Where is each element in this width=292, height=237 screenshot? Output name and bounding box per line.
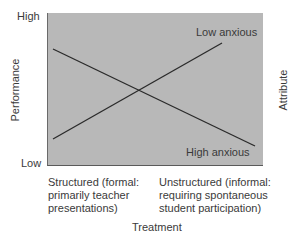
high-anxious-line: [53, 49, 255, 146]
category-structured-line3: presentations): [48, 202, 139, 215]
series-label-low-anxious: Low anxious: [196, 26, 257, 38]
y-axis-label: Performance: [9, 59, 21, 122]
y-tick-low: Low: [21, 157, 41, 169]
category-structured-line2: primarily teacher: [48, 189, 139, 202]
category-label-structured: Structured (formal: primarily teacher pr…: [48, 176, 139, 215]
category-structured-line1: Structured (formal:: [48, 176, 139, 189]
category-label-unstructured: Unstructured (informal: requiring sponta…: [159, 176, 271, 215]
x-axis-label: Treatment: [132, 221, 182, 233]
series-label-high-anxious: High anxious: [186, 146, 250, 158]
y-tick-high: High: [17, 10, 40, 22]
category-unstructured-line3: student participation): [159, 202, 271, 215]
category-unstructured-line2: requiring spontaneous: [159, 189, 271, 202]
category-unstructured-line1: Unstructured (informal:: [159, 176, 271, 189]
low-anxious-line: [53, 43, 222, 139]
y2-axis-label: Attribute: [277, 70, 289, 111]
